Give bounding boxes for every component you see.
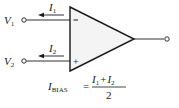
- op-amp-triangle: [70, 7, 134, 71]
- current-1-arrow-icon: [38, 13, 44, 17]
- v2-label: V2: [4, 55, 15, 69]
- bias-formula: IBIAS = I1+I2 2: [47, 73, 126, 101]
- formula-denominator: 2: [106, 89, 112, 101]
- current-2-arrow-icon: [38, 54, 44, 58]
- v1-label: V1: [4, 14, 15, 28]
- op-amp-bias-diagram: + V1 V2 I1 I2 IBIAS = I1+I2 2: [0, 0, 179, 108]
- input-2-terminal: [22, 59, 26, 63]
- output-terminal: [165, 37, 169, 41]
- i1-label: I1: [48, 1, 57, 15]
- formula-numerator: I1+I2: [91, 73, 115, 87]
- non-inverting-sign: +: [73, 56, 79, 67]
- formula-lhs: IBIAS: [47, 80, 68, 94]
- input-1-terminal: [22, 18, 26, 22]
- formula-equals: =: [83, 80, 89, 92]
- i2-label: I2: [48, 42, 57, 56]
